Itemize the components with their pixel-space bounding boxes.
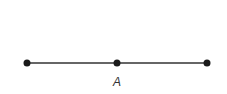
right-endpoint-dot [204, 60, 211, 67]
point-label-a: A [112, 75, 121, 89]
midpoint-dot [114, 60, 121, 67]
line-segment-diagram: A [0, 0, 227, 94]
left-endpoint-dot [24, 60, 31, 67]
